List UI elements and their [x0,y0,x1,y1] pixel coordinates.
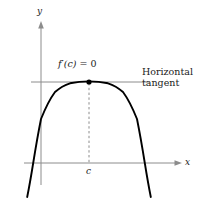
calculus-figure: y x c f′(c) = 0 Horizontaltangent [0,0,198,203]
derivative-argument: (c) [64,58,77,69]
figure-canvas [0,0,198,203]
derivative-equals-zero: = 0 [76,58,96,69]
horizontal-tangent-label: Horizontaltangent [142,66,193,88]
critical-value-tick-label: c [86,166,91,177]
horizontal-tangent-line-1: Horizontal [142,66,193,77]
x-axis [24,160,182,166]
critical-point-dot [86,79,91,84]
derivative-equals-zero-label: f′(c) = 0 [58,58,96,69]
horizontal-tangent-line-2: tangent [142,77,193,88]
x-axis-arrowhead [175,160,183,166]
y-axis-arrowhead [38,21,44,29]
y-axis [38,21,44,185]
x-axis-label: x [185,157,190,168]
y-axis-label: y [37,6,42,17]
